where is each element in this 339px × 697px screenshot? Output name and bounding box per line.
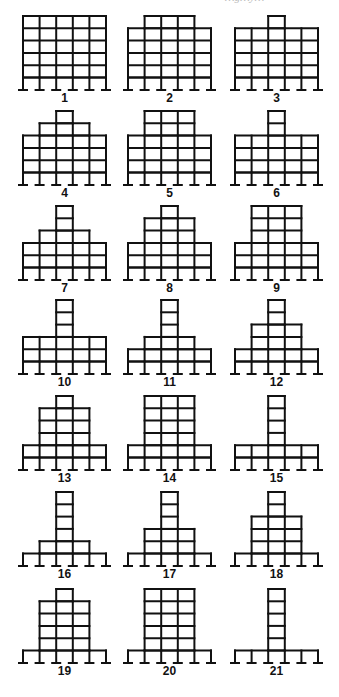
frame-label: 21 (270, 664, 284, 678)
frame-12: 12 (231, 300, 322, 389)
frame-6: 6 (231, 111, 322, 200)
frame-8: 8 (124, 206, 215, 295)
frame-19: 19 (19, 589, 110, 678)
frame-4: 4 (19, 111, 110, 200)
frame-10: 10 (19, 300, 110, 389)
frame-label: 13 (58, 471, 72, 485)
frame-16: 16 (19, 492, 110, 581)
frame-20: 20 (124, 589, 215, 678)
frame-7: 7 (19, 206, 110, 295)
frame-label: 1 (61, 91, 68, 105)
frame-label: 10 (58, 375, 72, 389)
frame-label: 15 (270, 471, 284, 485)
frame-label: 6 (273, 186, 280, 200)
frame-label: 7 (61, 281, 68, 295)
frame-label: 14 (163, 471, 177, 485)
frame-5: 5 (124, 111, 215, 200)
frame-label: 8 (166, 281, 173, 295)
frame-1: 1 (19, 16, 110, 105)
frame-17: 17 (124, 492, 215, 581)
frame-15: 15 (231, 396, 322, 485)
frame-18: 18 (231, 492, 322, 581)
frame-label: 20 (163, 664, 177, 678)
frame-13: 13 (19, 396, 110, 485)
frame-11: 11 (124, 300, 215, 389)
frame-label: 4 (61, 186, 68, 200)
frame-diagram-grid: 123456789101112131415161718192021 (0, 0, 339, 697)
frame-label: 11 (163, 375, 176, 389)
frame-9: 9 (231, 206, 322, 295)
frame-2: 2 (124, 16, 215, 105)
frame-label: 19 (58, 664, 72, 678)
frame-label: 3 (273, 91, 280, 105)
frame-21: 21 (231, 589, 322, 678)
frame-label: 2 (166, 91, 173, 105)
frame-label: 17 (163, 567, 177, 581)
frame-label: 12 (270, 375, 284, 389)
frame-label: 16 (58, 567, 72, 581)
frame-label: 5 (166, 186, 173, 200)
frame-3: 3 (231, 16, 322, 105)
frame-label: 18 (270, 567, 284, 581)
frame-14: 14 (124, 396, 215, 485)
frame-label: 9 (273, 281, 280, 295)
